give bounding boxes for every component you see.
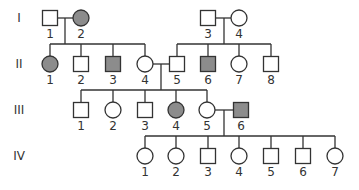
individual-number: 1 <box>46 27 54 41</box>
female-circle <box>327 148 343 164</box>
female-circle <box>231 10 247 26</box>
male-square <box>74 57 89 72</box>
individual-number: 6 <box>204 73 212 87</box>
individual-number: 6 <box>237 119 245 133</box>
individual-number: 2 <box>77 27 85 41</box>
individual-i-3: 3 <box>201 11 216 42</box>
generation-labels: IIIIIIIV <box>13 11 26 163</box>
individual-iii-3: 3 <box>138 103 153 134</box>
individual-iv-5: 5 <box>264 149 279 180</box>
male-square <box>138 103 153 118</box>
individual-number: 3 <box>204 27 212 41</box>
individual-number: 1 <box>141 165 149 179</box>
individuals: 1234123456781234561234567 <box>42 10 343 179</box>
individual-number: 2 <box>77 73 85 87</box>
individual-iv-7: 7 <box>327 148 343 179</box>
affected-female-circle <box>168 102 184 118</box>
affected-male-square <box>106 57 121 72</box>
individual-number: 7 <box>235 73 243 87</box>
generation-label: II <box>15 57 22 71</box>
individual-number: 3 <box>141 119 149 133</box>
individual-number: 2 <box>109 119 117 133</box>
individual-iii-1: 1 <box>74 103 89 134</box>
individual-iv-4: 4 <box>231 148 247 179</box>
generation-label: III <box>14 103 25 117</box>
male-square <box>264 149 279 164</box>
individual-iii-5: 5 <box>199 102 215 133</box>
individual-i-4: 4 <box>231 10 247 41</box>
female-circle <box>105 102 121 118</box>
individual-ii-7: 7 <box>231 56 247 87</box>
individual-iii-6: 6 <box>234 103 249 134</box>
individual-number: 2 <box>172 165 180 179</box>
connector-lines <box>50 18 335 148</box>
female-circle <box>168 148 184 164</box>
individual-ii-3: 3 <box>106 57 121 88</box>
affected-female-circle <box>42 56 58 72</box>
individual-number: 4 <box>172 119 180 133</box>
female-circle <box>137 56 153 72</box>
individual-number: 7 <box>331 165 339 179</box>
individual-iii-2: 2 <box>105 102 121 133</box>
individual-number: 1 <box>46 73 54 87</box>
male-square <box>43 11 58 26</box>
affected-male-square <box>234 103 249 118</box>
individual-iv-3: 3 <box>201 149 216 180</box>
individual-iii-4: 4 <box>168 102 184 133</box>
individual-number: 5 <box>173 73 181 87</box>
individual-number: 4 <box>235 27 243 41</box>
individual-number: 4 <box>235 165 243 179</box>
male-square <box>264 57 279 72</box>
individual-ii-4: 4 <box>137 56 153 87</box>
individual-number: 3 <box>109 73 117 87</box>
individual-number: 5 <box>203 119 211 133</box>
individual-ii-6: 6 <box>201 57 216 88</box>
male-square <box>74 103 89 118</box>
male-square <box>201 11 216 26</box>
male-square <box>201 149 216 164</box>
individual-i-2: 2 <box>73 10 89 41</box>
individual-iv-1: 1 <box>137 148 153 179</box>
individual-iv-6: 6 <box>296 149 311 180</box>
female-circle <box>231 148 247 164</box>
individual-number: 6 <box>299 165 307 179</box>
individual-number: 4 <box>141 73 149 87</box>
female-circle <box>231 56 247 72</box>
individual-number: 3 <box>204 165 212 179</box>
individual-ii-8: 8 <box>264 57 279 88</box>
female-circle <box>137 148 153 164</box>
female-circle <box>199 102 215 118</box>
individual-i-1: 1 <box>43 11 58 42</box>
individual-iv-2: 2 <box>168 148 184 179</box>
male-square <box>170 57 185 72</box>
individual-ii-1: 1 <box>42 56 58 87</box>
affected-male-square <box>201 57 216 72</box>
affected-female-circle <box>73 10 89 26</box>
individual-ii-5: 5 <box>170 57 185 88</box>
individual-number: 8 <box>267 73 275 87</box>
generation-label: IV <box>13 149 26 163</box>
generation-label: I <box>17 11 21 25</box>
individual-number: 1 <box>77 119 85 133</box>
pedigree-diagram: IIIIIIIV 1234123456781234561234567 <box>0 0 359 190</box>
pedigree-svg: IIIIIIIV 1234123456781234561234567 <box>0 0 359 190</box>
male-square <box>296 149 311 164</box>
individual-number: 5 <box>267 165 275 179</box>
individual-ii-2: 2 <box>74 57 89 88</box>
